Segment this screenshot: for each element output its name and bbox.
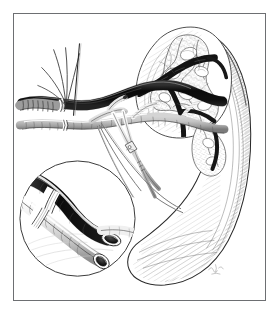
illustration-canvas <box>14 14 265 300</box>
illustration-svg <box>14 14 265 300</box>
figure-root: Ligation and division of the hilar vesse… <box>0 0 280 319</box>
plate-border <box>13 13 266 301</box>
